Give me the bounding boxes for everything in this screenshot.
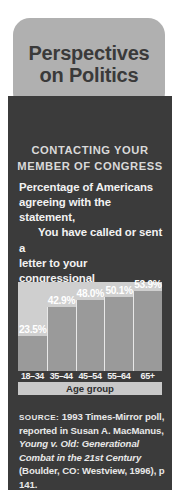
- chart-x-tick-label: 65+: [133, 371, 162, 382]
- chart-bar: [76, 300, 105, 371]
- chart-bar-value-label: 53.9%: [134, 279, 163, 290]
- statement-intro-line-2: agreeing with the: [19, 195, 165, 210]
- statement-intro-line-1: Percentage of Americans: [19, 180, 165, 195]
- title-line-2: on Politics: [40, 64, 139, 86]
- chart-plot-area: 23.5%42.9%48.0%50.1%53.9%: [18, 282, 162, 371]
- heading-line-1: CONTACTING YOUR: [8, 142, 172, 158]
- chart-bar-column: 48.0%: [76, 282, 105, 371]
- heading-line-2: MEMBER OF CONGRESS: [8, 158, 172, 174]
- chart-bars: 23.5%42.9%48.0%50.1%53.9%: [18, 282, 162, 371]
- chart-bar-value-label: 50.1%: [105, 285, 134, 296]
- chart-bar-column: 42.9%: [47, 282, 76, 371]
- chart-x-tick-label: 35–44: [47, 371, 76, 382]
- perspectives-on-politics-figure: Perspectives on Politics CONTACTING YOUR…: [0, 0, 179, 490]
- content-panel: CONTACTING YOUR MEMBER OF CONGRESS Perce…: [8, 96, 172, 490]
- chart-x-tick-label: 45–54: [76, 371, 105, 382]
- statement-intro-line-3: statement,: [19, 210, 165, 225]
- chart-bar: [133, 291, 162, 371]
- source-note: SOURCE: 1993 Times-Mirror poll, reported…: [19, 410, 167, 490]
- bar-chart: 23.5%42.9%48.0%50.1%53.9% 18–3435–4445–5…: [18, 282, 162, 389]
- chart-bar-value-label: 42.9%: [48, 295, 77, 306]
- source-text-2: (Boulder, CO: Westview, 1996), p 141.: [19, 465, 165, 490]
- chart-bar: [18, 336, 47, 371]
- source-italic-title: Young v. Old: Generational Combat in the…: [19, 438, 141, 463]
- chart-x-tick-label: 55–64: [104, 371, 133, 382]
- chart-bar-value-label: 48.0%: [77, 288, 106, 299]
- chart-x-tick-label: 18–34: [18, 371, 47, 382]
- chart-bar: [104, 297, 133, 371]
- chart-x-axis-title: Age group: [18, 382, 162, 395]
- section-heading: CONTACTING YOUR MEMBER OF CONGRESS: [8, 142, 172, 174]
- chart-bar-column: 50.1%: [104, 282, 133, 371]
- source-label: SOURCE:: [19, 413, 59, 422]
- chart-bar-column: 23.5%: [18, 282, 47, 371]
- chart-bar-value-label: 23.5%: [19, 324, 48, 335]
- chart-x-tick-labels: 18–3435–4445–5455–6465+: [18, 371, 162, 382]
- chart-bar: [47, 307, 76, 371]
- statement-quote-line-1: You have called or sent a: [19, 225, 165, 255]
- chart-bar-column: 53.9%: [133, 282, 162, 371]
- title-line-1: Perspectives: [28, 42, 149, 64]
